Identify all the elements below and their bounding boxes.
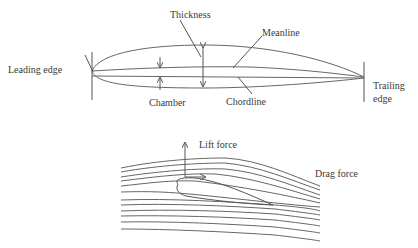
thickness-label: Thickness — [170, 9, 211, 20]
lift-force-label: Lift force — [199, 139, 237, 150]
leading-edge-label: Leading edge — [8, 64, 62, 75]
trailing-edge-label-line2: edge — [373, 93, 392, 104]
chordline-label: Chordline — [226, 96, 266, 107]
meanline-label: Meanline — [262, 27, 300, 38]
airfoil-profile — [92, 45, 364, 88]
chamber-label: Chamber — [149, 97, 186, 108]
diagram-graphics — [0, 0, 418, 248]
drag-force-label: Drag force — [315, 168, 358, 179]
streamlines — [121, 158, 320, 241]
airfoil-figure: Leading edge Thickness Meanline Trailing… — [0, 0, 418, 248]
trailing-edge-label-line1: Trailing — [373, 80, 405, 91]
